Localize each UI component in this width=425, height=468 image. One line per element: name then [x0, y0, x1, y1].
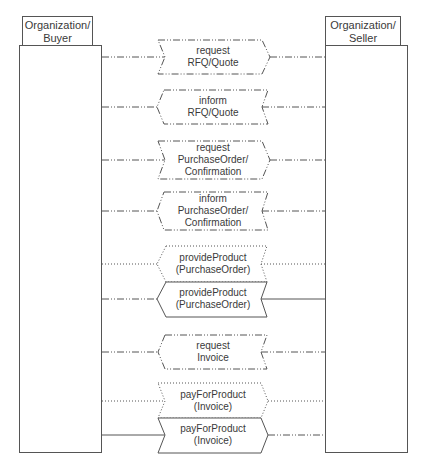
- label-line: (PurchaseOrder): [163, 299, 263, 311]
- label-line: provideProduct: [163, 287, 263, 299]
- label-line: payForProduct: [163, 389, 263, 401]
- label-line: request: [163, 340, 263, 352]
- message-label-payforproduct-dotted: payForProduct (Invoice): [163, 389, 263, 413]
- message-label-payforproduct-solid: payForProduct (Invoice): [163, 423, 263, 447]
- label-line: PurchaseOrder/: [163, 205, 263, 217]
- label-line: Confirmation: [163, 217, 263, 229]
- label-line: RFQ/Quote: [163, 57, 263, 69]
- label-line: Invoice: [163, 352, 263, 364]
- label-line: inform: [163, 193, 263, 205]
- label-line: payForProduct: [163, 423, 263, 435]
- message-label-request-purchaseorder-confirmation: request PurchaseOrder/ Confirmation: [163, 142, 263, 178]
- label-line: (Invoice): [163, 401, 263, 413]
- label-line: PurchaseOrder/: [163, 154, 263, 166]
- label-line: RFQ/Quote: [163, 107, 263, 119]
- message-label-inform-rfq-quote: inform RFQ/Quote: [163, 95, 263, 119]
- message-label-provideproduct-solid: provideProduct (PurchaseOrder): [163, 287, 263, 311]
- label-line: request: [163, 142, 263, 154]
- message-label-provideproduct-dotted: provideProduct (PurchaseOrder): [163, 252, 263, 276]
- label-line: request: [163, 45, 263, 57]
- message-label-request-rfq-quote: request RFQ/Quote: [163, 45, 263, 69]
- label-line: inform: [163, 95, 263, 107]
- message-label-request-invoice: request Invoice: [163, 340, 263, 364]
- label-line: provideProduct: [163, 252, 263, 264]
- label-line: Confirmation: [163, 166, 263, 178]
- label-line: (Invoice): [163, 435, 263, 447]
- label-line: (PurchaseOrder): [163, 264, 263, 276]
- message-label-inform-purchaseorder-confirmation: inform PurchaseOrder/ Confirmation: [163, 193, 263, 229]
